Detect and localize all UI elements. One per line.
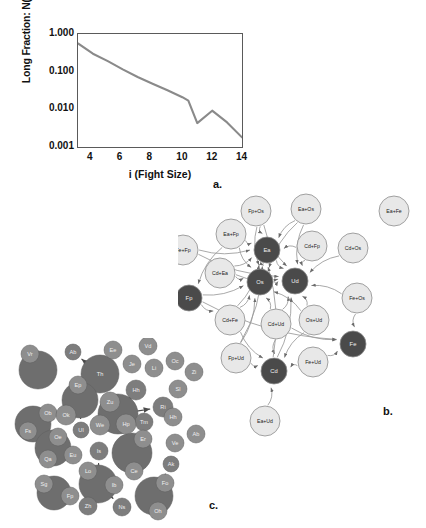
- cluster-node[interactable]: Vr: [21, 345, 39, 363]
- panel-a-chart: Long Fraction: N(i)/N(>2) 1.0000.1000.01…: [0, 0, 270, 192]
- cluster-node[interactable]: Is: [90, 442, 108, 460]
- cluster-node[interactable]: Ep: [69, 376, 87, 394]
- network-node[interactable]: Ea+Ud: [250, 406, 280, 436]
- network-node-label: Cd: [270, 368, 277, 374]
- network-node[interactable]: Os+Ud: [299, 305, 329, 335]
- chart-x-tick: 14: [236, 151, 247, 163]
- cluster-node[interactable]: Je: [123, 355, 141, 373]
- cluster-node[interactable]: Ns: [113, 498, 131, 516]
- cluster-node[interactable]: Oh: [149, 502, 167, 520]
- network-edge: [259, 226, 262, 233]
- network-node[interactable]: Cd+Fp: [297, 231, 327, 261]
- cluster-node[interactable]: Fp: [61, 487, 79, 505]
- network-node-label: Fe+Os: [349, 295, 365, 301]
- cluster-node[interactable]: Li: [145, 359, 163, 377]
- cluster-node-label: Eu: [70, 452, 77, 458]
- network-node[interactable]: Ea+Fe: [379, 196, 409, 226]
- cluster-node-label: Lo: [85, 468, 91, 474]
- cluster-node-label: Oe: [54, 434, 61, 440]
- network-node[interactable]: Ea: [254, 237, 280, 263]
- network-node[interactable]: Fp+Ud: [221, 343, 251, 373]
- cluster-node[interactable]: Er: [134, 430, 152, 448]
- cluster-node-label: Li: [152, 365, 156, 371]
- network-node[interactable]: Ud: [282, 268, 308, 294]
- network-node-label: Fp+Os: [248, 208, 264, 214]
- cluster-node[interactable]: Hh: [164, 408, 182, 426]
- figure-root: Long Fraction: N(i)/N(>2) 1.0000.1000.01…: [0, 0, 426, 528]
- network-node[interactable]: Fe+Fp: [178, 235, 198, 265]
- cluster-node[interactable]: Tm: [135, 413, 153, 431]
- network-node-label: Fe+Fp: [178, 247, 191, 253]
- network-node[interactable]: Os: [247, 269, 273, 295]
- network-edge: [268, 388, 272, 406]
- cluster-node-label: Ak: [168, 461, 175, 467]
- network-node[interactable]: Cd+Ud: [261, 309, 291, 339]
- cluster-node-label: We: [96, 422, 104, 428]
- chart-x-tick: 12: [206, 151, 217, 163]
- network-node[interactable]: Cd: [261, 358, 287, 384]
- cluster-node[interactable]: Lo: [79, 462, 97, 480]
- panel-c-letter: c.: [209, 499, 218, 511]
- cluster-node[interactable]: Ve: [166, 434, 184, 452]
- cluster-node-label: Ul: [78, 427, 83, 433]
- cluster-node[interactable]: Ib: [105, 476, 123, 494]
- network-edge: [199, 250, 250, 254]
- network-node-label: Ea+Fp: [223, 231, 239, 237]
- network-node[interactable]: Cd+Os: [338, 233, 368, 263]
- cluster-node[interactable]: Oe: [49, 428, 67, 446]
- network-node-label: Ea+Fe: [386, 208, 402, 214]
- network-node[interactable]: Fe+Os: [342, 283, 372, 313]
- cluster-node-label: Oh: [154, 508, 161, 514]
- cluster-node[interactable]: Fs: [19, 422, 37, 440]
- cluster-node-label: Ee: [110, 347, 117, 353]
- network-edge: [262, 264, 264, 266]
- cluster-node[interactable]: We: [90, 415, 110, 435]
- cluster-node-label: Sg: [41, 481, 48, 487]
- network-edge: [328, 351, 338, 356]
- network-edge: [239, 248, 251, 268]
- cluster-node-label: Er: [140, 436, 146, 442]
- cluster-node[interactable]: Eu: [64, 446, 82, 464]
- network-node[interactable]: Fe+Ud: [298, 347, 328, 377]
- cluster-node[interactable]: Ak: [163, 456, 179, 472]
- cluster-node[interactable]: Zu: [100, 392, 120, 412]
- cluster-node[interactable]: Ee: [104, 341, 122, 359]
- network-node-label: Os+Ud: [306, 317, 322, 323]
- network-node[interactable]: Ea+Os: [291, 194, 321, 224]
- network-node[interactable]: Cd+Fe: [215, 305, 245, 335]
- network-node[interactable]: Fp+Os: [241, 196, 271, 226]
- cluster-node-label: Hp: [122, 421, 129, 427]
- network-node-label: Fe: [350, 341, 357, 347]
- network-node[interactable]: Fp: [178, 285, 202, 311]
- network-node[interactable]: Fe: [340, 331, 366, 357]
- network-node[interactable]: Ea+Fp: [216, 219, 246, 249]
- network-node[interactable]: Cd+Ea: [205, 258, 235, 288]
- cluster-node[interactable]: Sl: [169, 380, 187, 398]
- cluster-node[interactable]: Fo: [156, 474, 174, 492]
- network-edge: [283, 297, 289, 310]
- cluster-node[interactable]: Ob: [39, 404, 57, 422]
- chart-series-line: [78, 43, 242, 137]
- cluster-node-label: Oc: [171, 358, 178, 364]
- cluster-node[interactable]: Zh: [79, 497, 97, 515]
- cluster-node[interactable]: Vd: [139, 338, 157, 355]
- cluster-node[interactable]: Ce: [125, 462, 143, 480]
- cluster-node[interactable]: Ok: [56, 405, 76, 425]
- network-edge: [201, 305, 213, 311]
- cluster-node[interactable]: Ab: [187, 425, 205, 443]
- cluster-node-label: Vr: [27, 351, 33, 357]
- cluster-node[interactable]: Zi: [185, 363, 203, 381]
- cluster-arrow: [137, 409, 150, 411]
- cluster-node[interactable]: Qa: [39, 450, 57, 468]
- cluster-node[interactable]: Ul: [73, 422, 89, 438]
- cluster-node[interactable]: Ab: [65, 344, 81, 360]
- cluster-node-label: Ns: [119, 504, 126, 510]
- cluster-node[interactable]: Hp: [116, 414, 136, 434]
- cluster-node[interactable]: Oc: [166, 352, 184, 370]
- panel-b-letter: b.: [383, 405, 393, 417]
- network-edge: [291, 365, 298, 368]
- cluster-node[interactable]: Sg: [35, 475, 53, 493]
- cluster-node-label: Ri: [160, 404, 165, 410]
- cluster-node-label: Ob: [44, 410, 51, 416]
- cluster-node[interactable]: Hh: [126, 380, 146, 400]
